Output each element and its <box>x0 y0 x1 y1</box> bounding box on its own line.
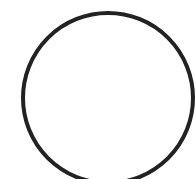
circle-outline <box>23 13 193 179</box>
drawing-canvas <box>0 0 196 179</box>
